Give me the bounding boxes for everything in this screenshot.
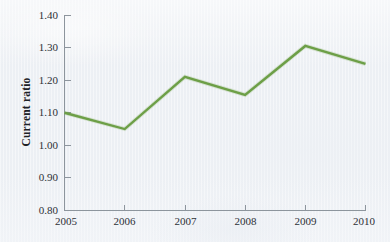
axes-group [65, 15, 367, 211]
x-tick-labels: 2005 2006 2007 2008 2009 2010 [55, 215, 376, 227]
y-tick-label: 1.00 [39, 139, 59, 151]
x-tick-label: 2005 [55, 215, 78, 227]
y-tick-label: 1.20 [39, 74, 59, 86]
x-tick-label: 2008 [235, 215, 258, 227]
x-tick-label: 2010 [353, 215, 376, 227]
x-tick-label: 2006 [114, 215, 137, 227]
y-tick-label: 1.10 [39, 106, 59, 118]
y-tick-label: 0.90 [39, 171, 59, 183]
x-tick-marks [65, 205, 366, 211]
line-chart: 1.40 1.30 1.20 1.10 1.00 0.90 0.80 2005 … [0, 0, 390, 242]
y-tick-label: 1.30 [39, 41, 59, 53]
x-tick-label: 2007 [175, 215, 198, 227]
chart-figure: 1.40 1.30 1.20 1.10 1.00 0.90 0.80 2005 … [0, 0, 390, 242]
y-axis-title: Current ratio [20, 77, 32, 146]
y-tick-label: 1.40 [39, 9, 59, 21]
y-tick-marks [65, 16, 71, 178]
series-line-halo [65, 46, 366, 129]
y-tick-labels: 1.40 1.30 1.20 1.10 1.00 0.90 0.80 [39, 9, 59, 216]
series-current-ratio [65, 46, 366, 129]
x-tick-label: 2009 [295, 215, 318, 227]
